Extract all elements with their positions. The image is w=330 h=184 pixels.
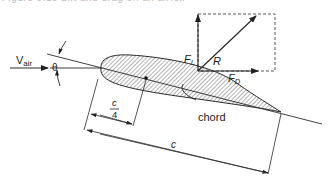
airfoil-diagram: Vair θ FL R FD chord c 4 c [0, 0, 330, 184]
velocity-label: Vair [16, 54, 33, 68]
chord-length-label: c [171, 139, 176, 150]
chord-label: chord [198, 111, 226, 123]
resultant-label: R [213, 55, 221, 67]
quarter-chord-denominator: 4 [112, 109, 117, 120]
chord-length-dimension-back [87, 130, 268, 173]
theta-arrow-top [59, 41, 66, 54]
force-parallelogram-dashed [198, 14, 275, 71]
drag-label: FD [228, 72, 241, 86]
resultant-vector [198, 16, 256, 71]
le-extension-line [84, 79, 98, 130]
theta-label: θ [52, 62, 58, 73]
lift-label: FL [184, 53, 195, 67]
quarter-chord-point [144, 76, 148, 80]
quarter-chord-numerator: c [112, 97, 117, 108]
te-extension-line [268, 114, 281, 174]
